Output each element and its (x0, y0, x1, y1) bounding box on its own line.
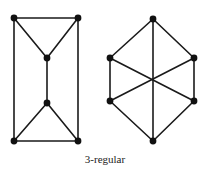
vertex-c (44, 55, 51, 62)
vertex-f (75, 138, 82, 145)
right-graph (107, 16, 198, 145)
graph-diagram (0, 0, 210, 173)
vertex-a (11, 15, 18, 22)
vertex-ul (107, 55, 114, 62)
vertex-t (150, 16, 157, 23)
edge-d-e (14, 103, 47, 141)
vertex-ll (107, 98, 114, 105)
vertex-e (11, 138, 18, 145)
vertex-b (75, 15, 82, 22)
edge-t-ul (110, 19, 153, 58)
edge-ll-bt (110, 101, 153, 141)
edge-d-f (47, 103, 78, 141)
edge-b-c (47, 18, 78, 58)
left-graph (11, 15, 82, 145)
vertex-bt (150, 138, 157, 145)
edge-lr-bt (153, 101, 194, 141)
figure-caption: 3-regular (0, 153, 210, 165)
edge-a-c (14, 18, 47, 58)
edge-t-ur (153, 19, 194, 58)
vertex-d (44, 100, 51, 107)
vertex-lr (191, 98, 198, 105)
vertex-ur (191, 55, 198, 62)
